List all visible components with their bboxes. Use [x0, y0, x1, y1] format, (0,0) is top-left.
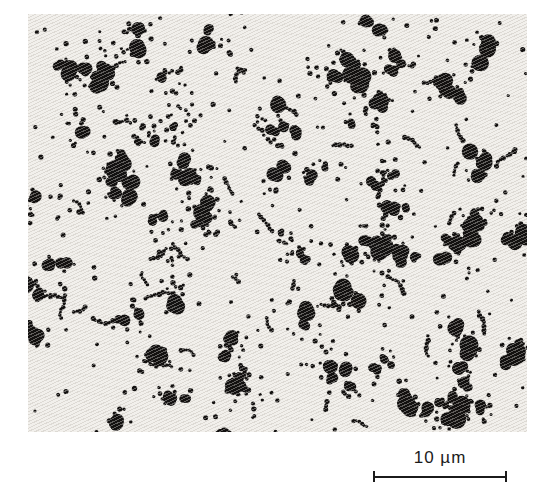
particle-field [28, 14, 527, 432]
scale-bar-right-tick [505, 471, 507, 482]
particles-svg [28, 14, 527, 432]
scale-bar-line [373, 471, 507, 482]
scale-bar-label: 10 µm [373, 449, 507, 467]
scale-bar: 10 µm [373, 449, 507, 482]
micrograph [28, 14, 527, 432]
figure-canvas: 10 µm [0, 0, 551, 495]
scale-bar-rule [373, 476, 507, 478]
